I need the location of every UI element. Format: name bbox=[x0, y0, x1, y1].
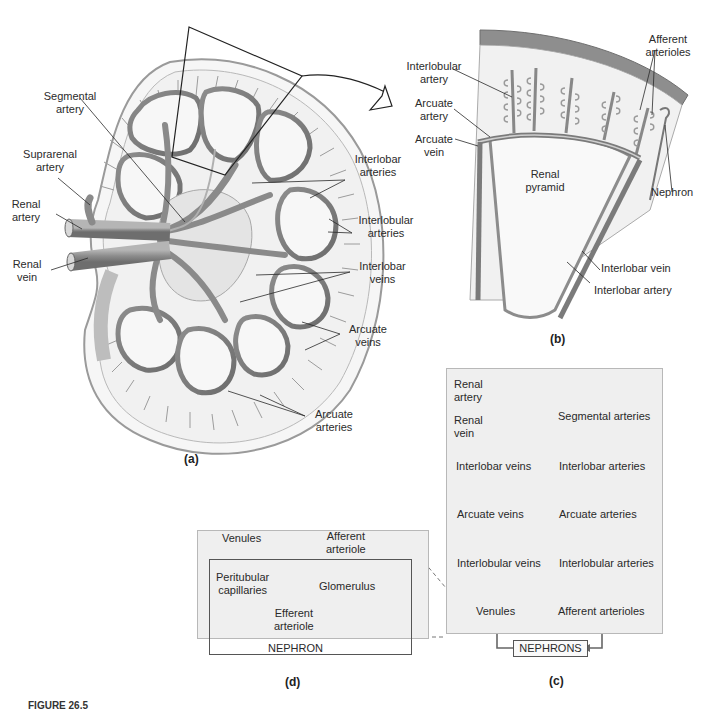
label-nephron: Nephron bbox=[651, 186, 693, 199]
flow-d-peritubular-capillaries: Peritubular capillaries bbox=[216, 571, 269, 597]
label-interlobar-vein: Interlobar vein bbox=[601, 262, 671, 275]
pyramid-8 bbox=[178, 329, 234, 393]
pyramid-7 bbox=[118, 308, 180, 370]
flowchart-c-box bbox=[446, 368, 663, 634]
wedge-interlobar-left bbox=[478, 142, 480, 300]
flow-renal-vein: Renal vein bbox=[454, 414, 483, 440]
flow-venules: Venules bbox=[476, 605, 515, 618]
label-segmental-artery: Segmental artery bbox=[40, 90, 100, 116]
label-interlobular-arteries: Interlobular arteries bbox=[355, 214, 417, 240]
flow-d-efferent-arteriole: Efferent arteriole bbox=[274, 607, 314, 633]
label-interlobar-veins: Interlobar veins bbox=[355, 260, 410, 286]
flow-interlobar-veins: Interlobar veins bbox=[456, 460, 531, 473]
flow-interlobular-veins: Interlobular veins bbox=[457, 557, 541, 570]
figure-caption: FIGURE 26.5 bbox=[28, 700, 88, 711]
panel-label-a: (a) bbox=[184, 452, 199, 466]
flow-d-venules: Venules bbox=[222, 532, 261, 545]
flow-nephrons-box: NEPHRONS bbox=[513, 640, 588, 657]
flow-d-afferent-arteriole: Afferent arteriole bbox=[326, 530, 366, 556]
label-suprarenal-artery: Suprarenal artery bbox=[20, 148, 80, 174]
renal-vein-vessel bbox=[70, 250, 170, 262]
panel-label-b: (b) bbox=[550, 332, 565, 346]
kidney-section bbox=[65, 59, 383, 453]
flow-renal-artery: Renal artery bbox=[454, 378, 483, 404]
flow-interlobular-arteries: Interlobular arteries bbox=[559, 557, 654, 570]
label-arcuate-vein: Arcuate vein bbox=[412, 133, 456, 159]
pyramid-5 bbox=[278, 189, 336, 258]
label-renal-vein: Renal vein bbox=[10, 258, 44, 284]
pyramid-3 bbox=[257, 112, 311, 180]
label-renal-pyramid: Renal pyramid bbox=[522, 168, 568, 194]
flow-arcuate-arteries: Arcuate arteries bbox=[559, 508, 637, 521]
renal-artery-vessel bbox=[68, 228, 170, 232]
flow-afferent-arterioles: Afferent arterioles bbox=[558, 605, 645, 618]
label-arcuate-artery: Arcuate artery bbox=[412, 97, 456, 123]
panel-label-c: (c) bbox=[549, 674, 564, 688]
renal-vein-opening bbox=[67, 253, 75, 271]
flow-segmental-arteries: Segmental arteries bbox=[558, 410, 650, 423]
flow-d-nephron-label: NEPHRON bbox=[268, 642, 323, 655]
label-afferent-arterioles: Afferent arterioles bbox=[640, 33, 696, 59]
label-interlobar-arteries: Interlobar arteries bbox=[348, 153, 408, 179]
label-arcuate-arteries: Arcuate arteries bbox=[308, 408, 360, 434]
label-interlobular-artery: Interlobular artery bbox=[404, 60, 464, 86]
panel-label-d: (d) bbox=[285, 675, 300, 689]
flow-arcuate-veins: Arcuate veins bbox=[457, 508, 524, 521]
pyramid-6 bbox=[272, 267, 328, 327]
pyramid-9 bbox=[236, 317, 288, 375]
label-renal-artery: Renal artery bbox=[6, 198, 46, 224]
suprarenal-artery-vessel bbox=[88, 198, 92, 222]
flow-d-glomerulus: Glomerulus bbox=[319, 580, 375, 593]
label-arcuate-veins: Arcuate veins bbox=[345, 323, 391, 349]
flow-interlobar-arteries: Interlobar arteries bbox=[559, 460, 645, 473]
label-interlobar-artery: Interlobar artery bbox=[594, 284, 672, 297]
